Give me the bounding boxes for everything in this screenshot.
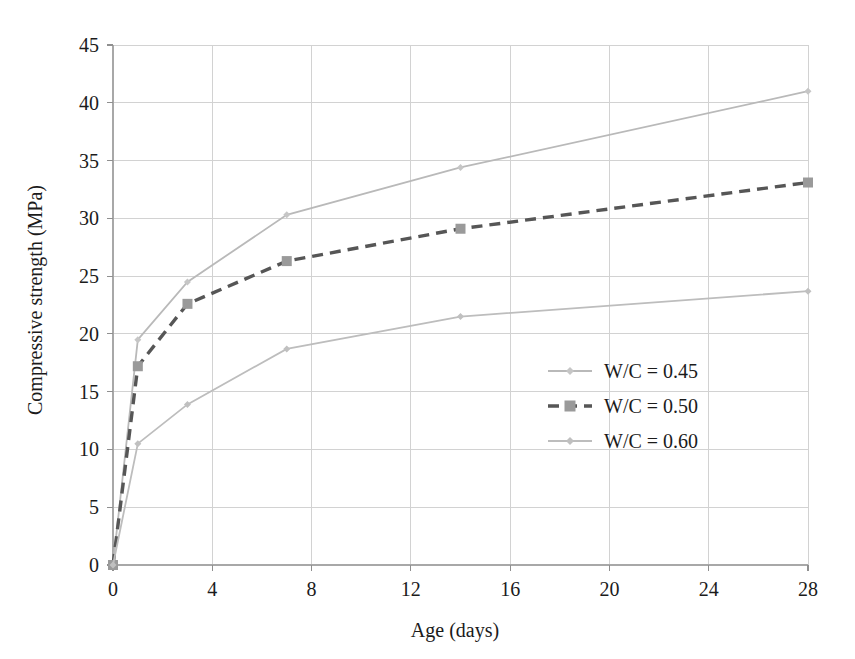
- legend-label: W/C = 0.50: [604, 395, 698, 417]
- y-tick-label: 10: [79, 438, 99, 460]
- y-tick-label: 20: [79, 323, 99, 345]
- data-point-marker: [566, 437, 574, 445]
- data-point-marker: [565, 401, 576, 412]
- x-tick-label: 12: [401, 578, 421, 600]
- x-tick-label: 20: [599, 578, 619, 600]
- data-point-marker: [133, 361, 143, 371]
- y-tick-label: 5: [89, 496, 99, 518]
- x-tick-label: 8: [307, 578, 317, 600]
- legend-entry-1[interactable]: W/C = 0.50: [548, 395, 698, 417]
- y-tick-label: 40: [79, 92, 99, 114]
- legend-label: W/C = 0.60: [604, 430, 698, 452]
- line-chart: 051015202530354045 0481216202428 W/C = 0…: [0, 0, 855, 659]
- gridlines: [113, 45, 808, 565]
- y-tick-label: 15: [79, 381, 99, 403]
- data-point-marker: [457, 313, 464, 320]
- data-point-marker: [803, 178, 813, 188]
- series-line: [113, 91, 808, 565]
- legend-entry-2[interactable]: W/C = 0.60: [548, 430, 698, 452]
- data-point-marker: [282, 256, 292, 266]
- axes-lines: [113, 45, 808, 565]
- series-0: [110, 88, 812, 569]
- x-tick-label: 0: [108, 578, 118, 600]
- y-tick-label: 35: [79, 150, 99, 172]
- x-tick-label: 28: [798, 578, 818, 600]
- data-point-marker: [457, 164, 464, 171]
- chart-figure: 051015202530354045 0481216202428 W/C = 0…: [0, 0, 855, 659]
- series-1: [108, 178, 813, 570]
- y-tick-labels: 051015202530354045: [79, 34, 99, 576]
- chart-legend: W/C = 0.45W/C = 0.50W/C = 0.60: [548, 360, 698, 452]
- x-tick-label: 16: [500, 578, 520, 600]
- data-point-marker: [456, 224, 466, 234]
- data-point-marker: [182, 299, 192, 309]
- y-tick-label: 45: [79, 34, 99, 56]
- data-point-marker: [805, 88, 812, 95]
- x-tick-label: 24: [699, 578, 719, 600]
- series-2: [110, 288, 812, 569]
- series-line: [113, 291, 808, 565]
- x-tick-label: 4: [207, 578, 217, 600]
- legend-entry-0[interactable]: W/C = 0.45: [548, 360, 698, 382]
- y-axis-title: Compressive strength (MPa): [24, 185, 47, 415]
- data-point-marker: [283, 345, 290, 352]
- data-point-marker: [566, 367, 574, 375]
- data-point-marker: [805, 288, 812, 295]
- y-tick-label: 0: [89, 554, 99, 576]
- y-tick-label: 25: [79, 265, 99, 287]
- x-tick-labels: 0481216202428: [108, 578, 818, 600]
- x-axis-title: Age (days): [411, 619, 499, 642]
- y-tick-label: 30: [79, 207, 99, 229]
- legend-label: W/C = 0.45: [604, 360, 698, 382]
